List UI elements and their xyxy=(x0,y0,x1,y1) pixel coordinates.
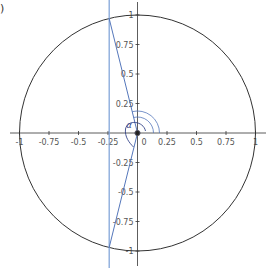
x-tick-label: 0.75 xyxy=(217,138,235,147)
x-tick-label: 0.25 xyxy=(158,138,176,147)
x-tick-label: -0.75 xyxy=(39,138,60,147)
origin-point[interactable] xyxy=(135,130,140,135)
angle-label-alpha: α xyxy=(127,121,133,130)
x-tick-label: -0.25 xyxy=(98,138,119,147)
x-tick-label: 0.5 xyxy=(190,138,203,147)
y-tick-label: 0.75 xyxy=(116,41,134,50)
x-tick-label: 0 xyxy=(142,138,147,147)
x-tick-label: -0.5 xyxy=(71,138,87,147)
y-tick-label: -0.5 xyxy=(118,188,134,197)
unit-circle-diagram: -1-0.75-0.5-0.2500.250.50.75110.750.50.2… xyxy=(0,0,268,268)
y-tick-label: -1 xyxy=(126,247,134,256)
